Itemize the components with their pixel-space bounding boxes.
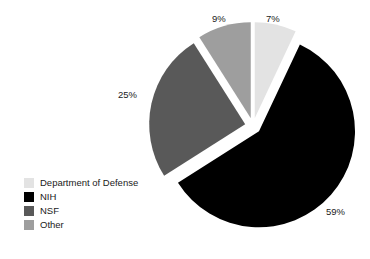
pie-chart: 9%7%25%59% Department of Defense NIH NSF… [0, 0, 370, 259]
pie-slices-group [149, 22, 355, 227]
legend-item-department-of-defense[interactable]: Department of Defense [24, 176, 174, 190]
legend-item-label: NIH [40, 190, 56, 204]
legend-swatch-icon [24, 192, 34, 202]
legend-item-nih[interactable]: NIH [24, 190, 174, 204]
legend-swatch-icon [24, 178, 34, 188]
pie-slice-value-label: 7% [266, 13, 280, 24]
pie-slice-value-label: 9% [212, 13, 226, 24]
legend-item-label: Other [40, 218, 64, 232]
legend-item-other[interactable]: Other [24, 218, 174, 232]
legend-swatch-icon [24, 220, 34, 230]
pie-slice-value-label: 25% [118, 89, 138, 100]
legend-item-label: NSF [40, 204, 59, 218]
legend-item-nsf[interactable]: NSF [24, 204, 174, 218]
pie-slice-value-label: 59% [326, 206, 346, 217]
chart-legend: Department of Defense NIH NSF Other [24, 176, 174, 232]
legend-swatch-icon [24, 206, 34, 216]
legend-item-label: Department of Defense [40, 176, 138, 190]
